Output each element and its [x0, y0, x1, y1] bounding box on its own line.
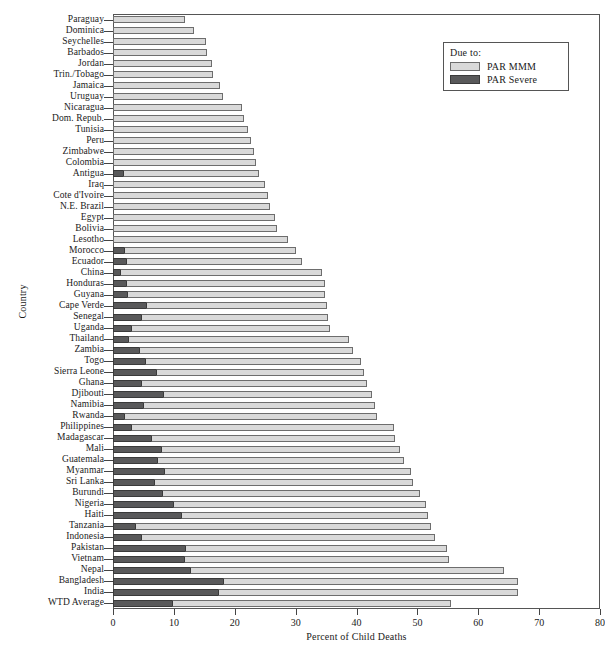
y-axis-tick-mark [104, 493, 113, 494]
y-axis-tick-mark [104, 163, 113, 164]
bar-row [113, 336, 349, 343]
x-axis-tick-mark [357, 609, 358, 615]
x-axis-tick-label: 80 [595, 617, 605, 628]
bar-segment-par-mmm [223, 578, 518, 585]
bar-row [113, 269, 322, 276]
bar-segment-par-mmm [113, 16, 185, 23]
y-axis-tick-mark [104, 42, 113, 43]
y-axis-tick-mark [104, 427, 113, 428]
bar-segment-par-mmm [154, 479, 413, 486]
bar-row [113, 424, 394, 431]
stacked-bar-chart: Country ParaguayDominicaSeychellesBarbad… [0, 0, 605, 649]
y-axis-tick-mark [104, 75, 113, 76]
bar-row [113, 82, 220, 89]
bar-segment-par-severe [113, 247, 124, 254]
bar-segment-par-severe [113, 523, 135, 530]
bar-row [113, 457, 404, 464]
bar-row [113, 104, 242, 111]
y-axis-tick-mark [104, 86, 113, 87]
x-axis-tick-mark [417, 609, 418, 615]
bar-segment-par-severe [113, 457, 157, 464]
legend-item-par-mmm: PAR MMM [450, 61, 562, 72]
bar-segment-par-mmm [113, 38, 206, 45]
bar-row [113, 446, 400, 453]
bar-row [113, 27, 194, 34]
y-axis-tick-mark [104, 152, 113, 153]
bar-row [113, 159, 256, 166]
bar-segment-par-mmm [124, 413, 377, 420]
y-axis-tick-mark [104, 383, 113, 384]
bar-segment-par-mmm [173, 501, 426, 508]
bar-segment-par-severe [113, 556, 184, 563]
y-axis-tick-mark [104, 53, 113, 54]
bar-segment-par-severe [113, 170, 123, 177]
bar-segment-par-severe [113, 600, 172, 607]
bar-segment-par-mmm [113, 203, 270, 210]
bar-row [113, 60, 212, 67]
bar-segment-par-mmm [190, 567, 504, 574]
y-axis-tick-mark [104, 306, 113, 307]
x-axis-tick-mark [296, 609, 297, 615]
bar-segment-par-severe [113, 589, 218, 596]
bar-row [113, 380, 367, 387]
x-axis-tick-label: 60 [473, 617, 483, 628]
bar-segment-par-mmm [126, 258, 301, 265]
bar-segment-par-severe [113, 280, 126, 287]
bar-row [113, 545, 447, 552]
bar-segment-par-mmm [172, 600, 451, 607]
bar-segment-par-mmm [184, 556, 449, 563]
legend-label-par-severe: PAR Severe [487, 74, 537, 85]
bar-segment-par-severe [113, 413, 124, 420]
y-axis-tick-mark [104, 218, 113, 219]
bar-row [113, 490, 420, 497]
bar-row [113, 589, 518, 596]
bar-row [113, 402, 375, 409]
y-axis-tick-mark [104, 229, 113, 230]
bar-segment-par-mmm [141, 314, 328, 321]
bar-row [113, 16, 185, 23]
bar-segment-par-severe [113, 347, 139, 354]
bar-segment-par-severe [113, 258, 126, 265]
y-axis-tick-mark [104, 537, 113, 538]
bar-segment-par-mmm [113, 181, 265, 188]
x-axis-tick-label: 0 [111, 617, 116, 628]
bar-segment-par-mmm [113, 192, 268, 199]
bar-segment-par-severe [113, 501, 173, 508]
bar-segment-par-mmm [126, 280, 324, 287]
x-axis-tick-label: 40 [352, 617, 362, 628]
y-axis-tick-mark [104, 251, 113, 252]
y-axis-tick-mark [104, 141, 113, 142]
bar-segment-par-mmm [181, 512, 428, 519]
bar-row [113, 258, 302, 265]
bar-segment-par-mmm [113, 126, 248, 133]
bar-segment-par-mmm [113, 159, 256, 166]
y-axis-tick-mark [104, 416, 113, 417]
y-axis-tick-mark [104, 119, 113, 120]
y-axis-tick-mark [104, 548, 113, 549]
y-axis-tick-mark [104, 504, 113, 505]
bar-segment-par-severe [113, 424, 131, 431]
bar-segment-par-mmm [163, 391, 372, 398]
bar-segment-par-mmm [113, 60, 212, 67]
bar-segment-par-mmm [120, 269, 323, 276]
bar-row [113, 358, 361, 365]
bar-segment-par-severe [113, 512, 181, 519]
x-axis-tick-label: 50 [412, 617, 422, 628]
y-axis-tick-mark [104, 482, 113, 483]
x-axis-tick-mark [113, 609, 114, 615]
bar-row [113, 38, 206, 45]
y-axis-tick-mark [104, 31, 113, 32]
bar-segment-par-severe [113, 302, 146, 309]
bar-segment-par-mmm [131, 325, 330, 332]
y-axis-tick-mark [104, 262, 113, 263]
bar-segment-par-severe [113, 291, 127, 298]
y-axis-tick-mark [104, 559, 113, 560]
y-axis-tick-mark [104, 108, 113, 109]
x-axis-tick-label: 20 [230, 617, 240, 628]
bar-row [113, 93, 223, 100]
bar-row [113, 369, 364, 376]
y-axis-tick-mark [104, 185, 113, 186]
bars-layer [113, 14, 600, 609]
x-axis-tick-mark [600, 609, 601, 615]
bar-segment-par-mmm [143, 402, 375, 409]
